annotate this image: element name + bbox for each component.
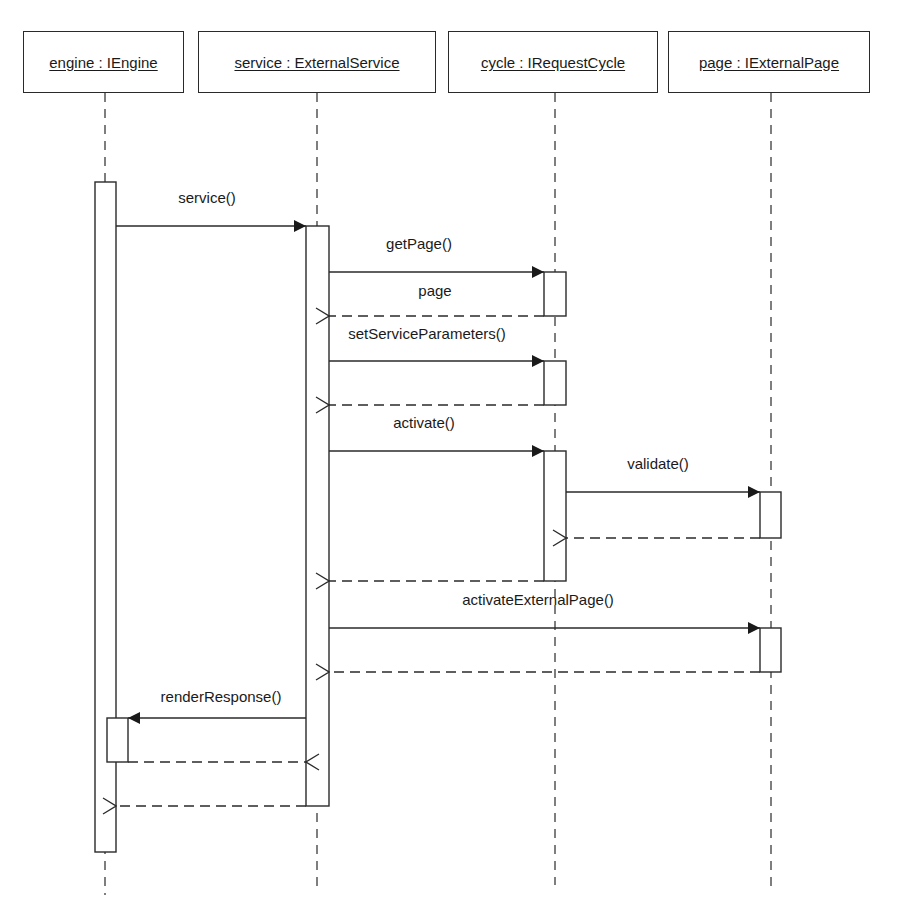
message-label-activateexternalpage: activateExternalPage() — [462, 591, 614, 608]
act-cycle-setparams — [544, 361, 566, 405]
act-engine-render — [107, 718, 128, 762]
message-label-validate: validate() — [627, 455, 689, 472]
message-arrows — [116, 226, 760, 806]
participant-service[interactable]: service : ExternalService — [198, 31, 436, 93]
lifelines — [105, 93, 771, 895]
message-label-getpage: getPage() — [386, 235, 452, 252]
sequence-diagram: engine : IEngine service : ExternalServi… — [0, 0, 897, 920]
message-label-service: service() — [178, 189, 236, 206]
participant-cycle[interactable]: cycle : IRequestCycle — [448, 31, 658, 93]
message-label-renderresponse: renderResponse() — [161, 688, 282, 705]
act-service-main — [306, 226, 329, 806]
participant-page[interactable]: page : IExternalPage — [668, 31, 870, 93]
participant-engine[interactable]: engine : IEngine — [23, 31, 184, 93]
message-label-setserviceparameters: setServiceParameters() — [348, 325, 506, 342]
diagram-canvas — [0, 0, 897, 920]
act-page-activateext — [760, 628, 781, 672]
message-label-activate: activate() — [393, 414, 455, 431]
message-label-page-return: page — [418, 282, 451, 299]
participant-label: service : ExternalService — [234, 54, 399, 71]
participant-label: page : IExternalPage — [699, 54, 839, 71]
act-page-validate — [760, 492, 781, 538]
participant-label: cycle : IRequestCycle — [481, 54, 625, 71]
participant-label: engine : IEngine — [49, 54, 157, 71]
act-cycle-getpage — [544, 272, 566, 316]
act-cycle-activate — [544, 451, 566, 581]
